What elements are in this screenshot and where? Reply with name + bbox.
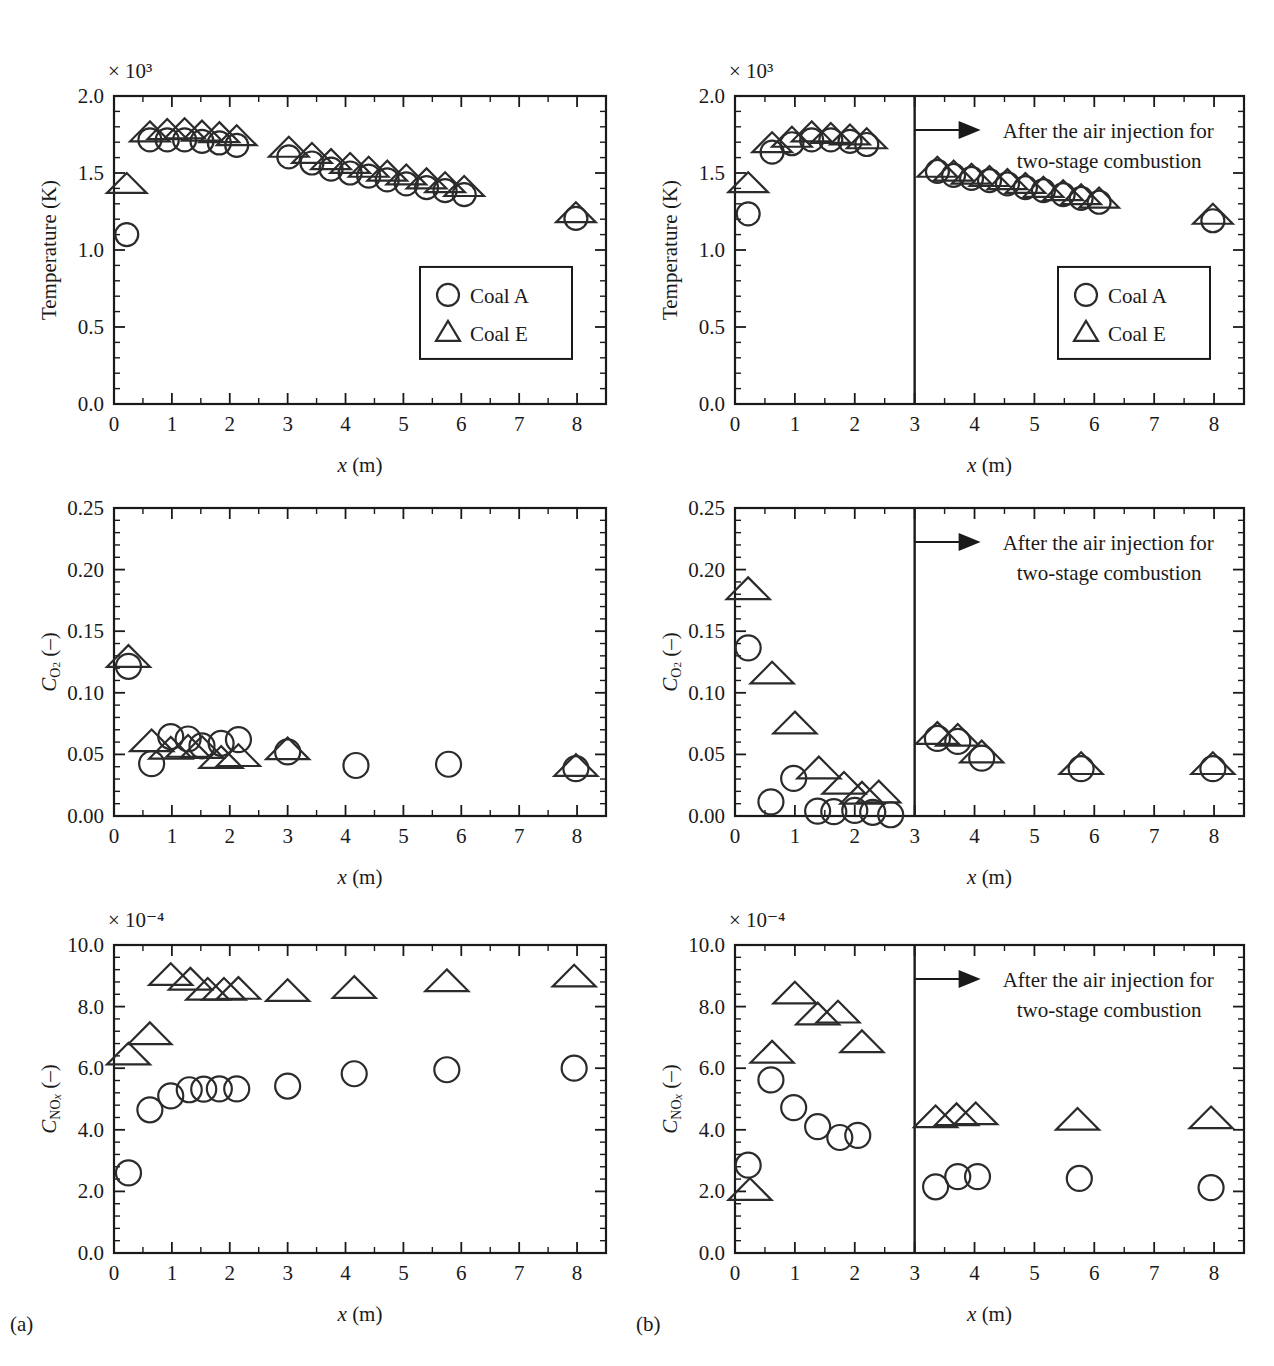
- subfigure-labels: (a)(b): [0, 0, 1274, 1366]
- subfigure-label-b: (b): [636, 1312, 661, 1336]
- figure-root: 0123456780.00.51.01.52.0× 10³Temperature…: [0, 0, 1274, 1366]
- subfigure-label-a: (a): [10, 1312, 33, 1336]
